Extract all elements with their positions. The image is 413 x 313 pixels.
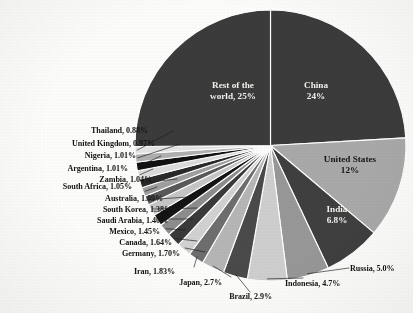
slice-label-russia: Russia, 5.0% bbox=[350, 264, 395, 274]
pie-chart-figure: Rest of the world, 25% China 24% United … bbox=[0, 0, 413, 313]
slice-label-mexico: Mexico, 1.45% bbox=[109, 227, 160, 237]
slice-label-japan: Japan, 2.7% bbox=[179, 278, 222, 288]
slice-label-united-states-line2: 12% bbox=[324, 165, 376, 176]
slice-label-india-line1: India bbox=[327, 204, 348, 215]
slice-label-united-kingdom: United Kingdom, 0.97% bbox=[72, 139, 155, 149]
slice-label-thailand: Thailand, 0.88% bbox=[91, 126, 148, 136]
slice-label-argentina: Argentina, 1.01% bbox=[67, 164, 128, 174]
slice-label-rest-of-world-line2: world, 25% bbox=[210, 91, 256, 102]
slice-label-united-states-line1: United States bbox=[324, 154, 376, 165]
slice-label-brazil: Brazil, 2.9% bbox=[229, 292, 272, 302]
slice-label-india: India 6.8% bbox=[327, 204, 348, 227]
slice-label-china: China 24% bbox=[304, 80, 328, 103]
slice-label-india-line2: 6.8% bbox=[327, 215, 348, 226]
slice-label-australia: Australia, 1.09% bbox=[105, 194, 163, 204]
slice-label-china-line1: China bbox=[304, 80, 328, 91]
slice-label-south-africa: South Africa, 1.05% bbox=[63, 182, 132, 192]
slice-label-china-line2: 24% bbox=[304, 91, 328, 102]
slice-label-iran: Iran, 1.83% bbox=[134, 267, 175, 277]
slice-label-south-korea: South Korea, 1.38% bbox=[103, 205, 172, 215]
pie-slice-china bbox=[271, 10, 406, 146]
slice-label-united-states: United States 12% bbox=[324, 154, 376, 177]
slice-label-rest-of-world-line1: Rest of the bbox=[210, 80, 256, 91]
slice-label-indonesia: Indonesia, 4.7% bbox=[285, 279, 340, 289]
pie-slice-rest-of-the-world bbox=[135, 10, 271, 146]
slice-label-nigeria: Nigeria, 1.01% bbox=[85, 151, 136, 161]
slice-label-canada: Canada, 1.64% bbox=[119, 238, 172, 248]
slice-label-rest-of-world: Rest of the world, 25% bbox=[210, 80, 256, 103]
slice-label-germany: Germany, 1.70% bbox=[122, 249, 180, 259]
slice-label-saudi-arabia: Saudi Arabia, 1.40% bbox=[97, 216, 168, 226]
